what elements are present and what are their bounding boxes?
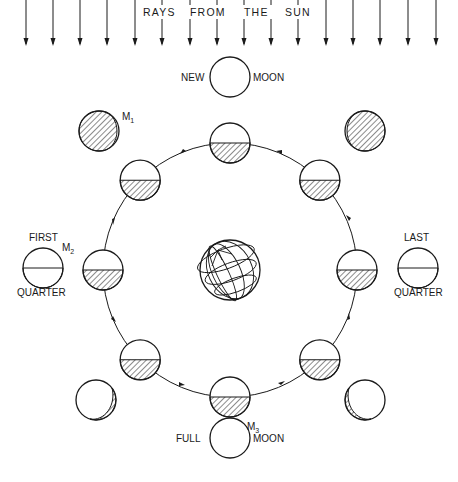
orbit-moon — [210, 123, 250, 163]
m2-label: M2 — [62, 242, 74, 255]
arrow-down-icon — [105, 38, 110, 46]
orbit-moon — [300, 340, 340, 380]
moon-phases-diagram: RAYS FROM THE SUN — [0, 0, 458, 482]
arrow-down-icon — [24, 38, 29, 46]
last-quarter — [398, 248, 438, 288]
last-label: LAST — [404, 232, 429, 243]
rays-word-sun: SUN — [285, 6, 311, 18]
orbit-moon — [210, 377, 250, 417]
orbit-moon — [300, 160, 340, 200]
new-label: NEW — [181, 72, 205, 83]
orbit-moon — [337, 250, 377, 290]
orbit-moon — [120, 160, 160, 200]
waxing-crescent-m1 — [77, 111, 119, 151]
arrow-down-icon — [78, 38, 83, 46]
new-moon-label: MOON — [253, 72, 284, 83]
arrow-down-icon — [133, 38, 138, 46]
arrow-icon — [278, 381, 285, 385]
last-quarter-label: QUARTER — [394, 287, 443, 298]
rays-label: RAYS FROM THE SUN — [140, 5, 318, 19]
arrow-down-icon — [188, 38, 193, 46]
first-quarter-m2 — [23, 248, 63, 288]
new-moon — [210, 57, 250, 97]
rays-word-the: THE — [244, 6, 269, 18]
arrow-down-icon — [351, 38, 356, 46]
first-quarter-label: QUARTER — [17, 287, 66, 298]
full-moon-label: MOON — [253, 433, 284, 444]
arrow-down-icon — [242, 38, 247, 46]
arrow-down-icon — [324, 38, 329, 46]
arrow-down-icon — [378, 38, 383, 46]
rays-word-rays: RAYS — [143, 6, 176, 18]
rays-word-from: FROM — [190, 6, 226, 18]
arrow-icon — [112, 218, 115, 225]
waning-crescent — [345, 111, 385, 151]
arrow-icon — [179, 382, 185, 386]
arrow-down-icon — [434, 38, 439, 46]
full-label: FULL — [176, 433, 201, 444]
arrow-down-icon — [269, 38, 274, 46]
waxing-gibbous — [76, 380, 116, 420]
waning-gibbous — [345, 380, 385, 420]
inner-moons — [83, 123, 377, 417]
arrow-down-icon — [51, 38, 56, 46]
arrow-down-icon — [296, 38, 301, 46]
full-moon-m3 — [210, 418, 250, 458]
m1-label: M1 — [122, 111, 134, 124]
earth-globe — [194, 234, 262, 307]
first-label: FIRST — [29, 232, 58, 243]
orbit-moon — [120, 340, 160, 380]
arrow-down-icon — [406, 38, 411, 46]
orbit-moon — [83, 250, 123, 290]
arrow-down-icon — [160, 38, 165, 46]
arrow-down-icon — [215, 38, 220, 46]
